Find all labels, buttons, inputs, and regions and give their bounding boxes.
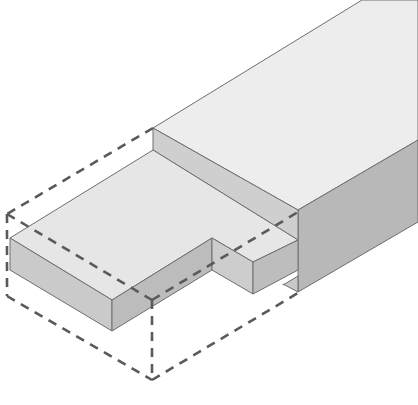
beam-illustration: [0, 0, 418, 405]
lower-recess-face: [283, 276, 298, 292]
joint-diagram: [0, 0, 418, 405]
